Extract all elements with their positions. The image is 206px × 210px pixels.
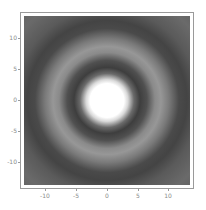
x-tick-mark: [107, 188, 108, 191]
x-tick-label: -10: [35, 193, 55, 199]
x-tick-label: -5: [66, 193, 86, 199]
x-tick-mark: [45, 188, 46, 191]
x-tick-label: 10: [158, 193, 178, 199]
y-tick-label: 0: [0, 97, 17, 103]
plot-frame: [20, 12, 194, 189]
y-tick-mark: [18, 131, 21, 132]
y-tick-label: -10: [0, 159, 17, 165]
y-tick-mark: [18, 100, 21, 101]
y-tick-label: 5: [0, 66, 17, 72]
y-tick-mark: [18, 69, 21, 70]
y-tick-label: 10: [0, 35, 17, 41]
y-tick-label: -5: [0, 128, 17, 134]
x-tick-mark: [76, 188, 77, 191]
density-plot-area: [24, 16, 190, 185]
x-tick-label: 0: [97, 193, 117, 199]
y-tick-mark: [18, 162, 21, 163]
x-tick-label: 5: [128, 193, 148, 199]
x-tick-mark: [138, 188, 139, 191]
x-tick-mark: [168, 188, 169, 191]
y-tick-mark: [18, 38, 21, 39]
